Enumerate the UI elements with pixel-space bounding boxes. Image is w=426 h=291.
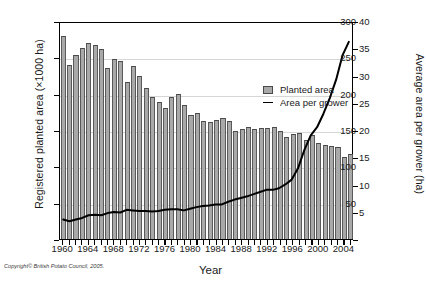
- y-axis-left-title: Registered planted area (×1000 ha): [33, 19, 45, 229]
- x-axis-tick-label: 2004: [323, 243, 363, 254]
- legend-swatch-line-icon: [263, 102, 273, 103]
- legend-swatch-box-icon: [263, 86, 273, 94]
- y-axis-right-tick: [353, 49, 358, 50]
- y-axis-left-tick-label: 100: [326, 161, 356, 172]
- line-series-area-per-grower: [60, 23, 352, 239]
- y-axis-left-tick-label: 250: [326, 52, 356, 63]
- y-axis-left-tick: [54, 95, 59, 96]
- y-axis-right-tick-label: 30: [359, 71, 389, 82]
- y-axis-right-tick: [353, 22, 358, 23]
- y-axis-right-tick-label: 40: [359, 16, 389, 27]
- y-axis-left-tick: [54, 167, 59, 168]
- y-axis-left-tick-label: 300: [326, 16, 356, 27]
- y-axis-left-tick: [54, 131, 59, 132]
- y-axis-right-tick: [353, 213, 358, 214]
- y-axis-left-tick: [54, 22, 59, 23]
- y-axis-left-tick-label: 150: [326, 125, 356, 136]
- y-axis-right-tick-label: 5: [359, 207, 389, 218]
- y-axis-right-tick: [353, 186, 358, 187]
- y-axis-left-tick: [54, 240, 59, 241]
- y-axis-left-tick-label: 50: [326, 198, 356, 209]
- y-axis-right-tick-label: 20: [359, 125, 389, 136]
- y-axis-right-tick-label: 15: [359, 152, 389, 163]
- y-axis-right-tick: [353, 104, 358, 105]
- y-axis-right-tick: [353, 158, 358, 159]
- y-axis-right-tick: [353, 131, 358, 132]
- y-axis-right-tick-label: 25: [359, 98, 389, 109]
- y-axis-left-tick-label: 200: [326, 89, 356, 100]
- y-axis-left-tick: [54, 204, 59, 205]
- y-axis-right-title: Average area per grower (ha): [414, 19, 426, 229]
- copyright-notice: Copyright© British Potato Council, 2005.: [4, 263, 104, 269]
- y-axis-right-tick: [353, 240, 358, 241]
- y-axis-right-tick-label: 35: [359, 43, 389, 54]
- plot-area: Planted area Area per grower: [59, 22, 353, 240]
- y-axis-right-tick-label: 10: [359, 180, 389, 191]
- y-axis-right-tick: [353, 77, 358, 78]
- y-axis-left-tick: [54, 58, 59, 59]
